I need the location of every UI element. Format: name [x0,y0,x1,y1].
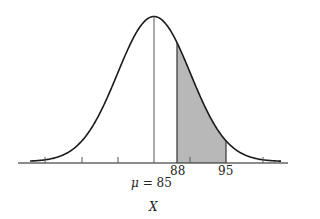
label-88: 88 [170,165,185,177]
normal-curve [30,17,281,162]
label-mean: μ = 85 [131,177,172,189]
label-95: 95 [218,165,233,177]
x-axis-label: X [149,201,158,213]
mu-value: = 85 [139,176,172,190]
mu-symbol: μ [131,176,139,190]
